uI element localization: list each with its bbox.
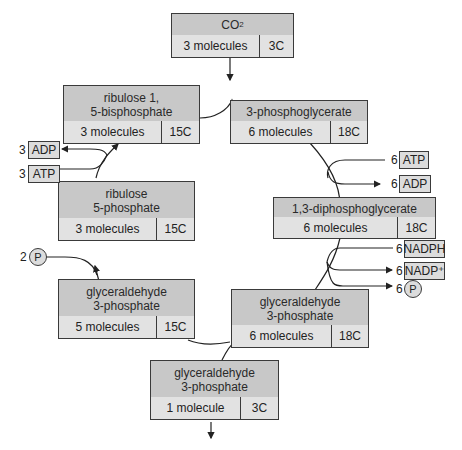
g3p-6-name: glyceraldehyde 3-phosphate [232, 290, 368, 328]
rubp-box: ribulose 1, 5-bisphosphate 3 molecules 1… [63, 85, 200, 144]
atp-left-coef: 3 [19, 165, 26, 183]
atp-right-tag: ATP [399, 151, 429, 169]
dpg-carbons: 18C [398, 217, 435, 238]
nadph-coef: 6 [396, 240, 403, 258]
ru5p-name: ribulose 5-phosphate [59, 182, 194, 221]
pi-left-coef: 2 [20, 248, 27, 266]
g3p-6-molecules: 6 molecules [232, 325, 332, 347]
dpg-molecules: 6 molecules [274, 217, 398, 238]
nadph-tag: NADPH [404, 240, 445, 258]
adp-left-coef: 3 [19, 141, 26, 159]
pga-carbons: 18C [331, 121, 367, 143]
pga-molecules: 6 molecules [231, 121, 331, 143]
g3p-1-carbons: 3C [241, 397, 278, 419]
rubp-name: ribulose 1, 5-bisphosphate [64, 86, 199, 124]
pga-box: 3-phosphoglycerate 6 molecules 18C [230, 100, 368, 144]
g3p-5-carbons: 15C [157, 316, 194, 338]
ru5p-molecules: 3 molecules [59, 218, 157, 240]
adp-left-tag: ADP [28, 141, 60, 159]
co2-carbons: 3C [260, 35, 293, 57]
g3p-1-name: glyceraldehyde 3-phosphate [151, 361, 278, 400]
dpg-box: 1,3-diphosphoglycerate 6 molecules 18C [273, 197, 436, 239]
g3p-1-box: glyceraldehyde 3-phosphate 1 molecule 3C [150, 360, 279, 420]
phosphate-left-icon: P [29, 248, 47, 266]
co2-box: CO2 3 molecules 3C [171, 13, 294, 58]
g3p-6-box: glyceraldehyde 3-phosphate 6 molecules 1… [231, 289, 369, 348]
ru5p-carbons: 15C [157, 218, 194, 240]
g3p-5-box: glyceraldehyde 3-phosphate 5 molecules 1… [58, 279, 195, 339]
rubp-molecules: 3 molecules [64, 121, 162, 143]
atp-right-coef: 6 [391, 151, 398, 169]
adp-right-tag: ADP [399, 175, 431, 193]
co2-name: CO2 [172, 14, 293, 37]
atp-left-tag: ATP [28, 165, 60, 183]
co2-molecules: 3 molecules [172, 35, 260, 57]
g3p-5-molecules: 5 molecules [59, 316, 157, 338]
g3p-6-carbons: 18C [332, 325, 368, 347]
g3p-1-molecules: 1 molecule [151, 397, 241, 419]
pi-right-coef: 6 [396, 280, 403, 298]
adp-right-coef: 6 [391, 175, 398, 193]
nadp-tag: NADP⁺ [404, 262, 445, 280]
g3p-5-name: glyceraldehyde 3-phosphate [59, 280, 194, 319]
nadp-coef: 6 [396, 262, 403, 280]
phosphate-right-icon: P [404, 280, 422, 298]
rubp-carbons: 15C [162, 121, 199, 143]
ru5p-box: ribulose 5-phosphate 3 molecules 15C [58, 181, 195, 241]
